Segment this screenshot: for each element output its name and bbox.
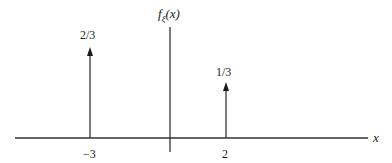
impulse-value-label-1: 2/3 [80,29,95,41]
y-axis-label: fξ(x) [158,8,180,25]
tick-label-2: 2 [222,148,228,160]
arrowhead-icon [223,82,229,91]
y-axis-label-arg: (x) [165,6,179,21]
pmf-plot [0,0,392,163]
x-axis-label: x [373,132,379,144]
impulse-value-label-2: 1/3 [216,66,231,78]
tick-label-neg3: −3 [83,148,96,160]
arrowhead-icon [87,47,93,56]
